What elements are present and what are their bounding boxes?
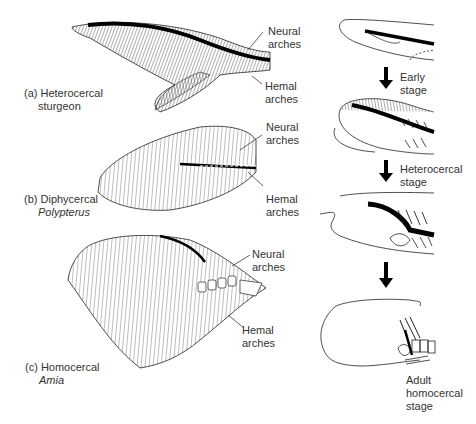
panel-c-neural-label: Neural arches [252,248,285,274]
panel-c-label: (c) Homocercal Amia [25,361,100,387]
panel-c-hemal-label: Hemal arches [242,324,275,350]
late-heterocercal-drawing [320,192,434,254]
panel-a-hemal-label: Hemal arches [265,80,298,106]
heterocercal-stage-label: Heterocercal stage [400,163,462,189]
panel-a-neural-label: Neural arches [268,25,301,51]
down-arrow-1 [379,67,393,89]
down-arrow-2 [379,160,393,182]
down-arrow-3 [379,262,393,288]
panel-a-label: (a) Heterocercal sturgeon [24,87,103,113]
adult-homocercal-stage-label: Adult homocercal stage [406,374,463,413]
panel-b-label: (b) Diphycercal Polypterus [24,193,98,219]
early-stage-label: Early stage [400,71,427,97]
homocercal-tail-drawing [68,235,266,368]
panel-b-neural-label: Neural arches [266,121,299,147]
heterocercal-stage-drawing [334,99,434,154]
diphycercal-tail-drawing [98,126,263,210]
adult-homocercal-drawing [321,299,435,366]
panel-b-hemal-label: Hemal arches [266,193,299,219]
early-stage-drawing [340,19,434,60]
